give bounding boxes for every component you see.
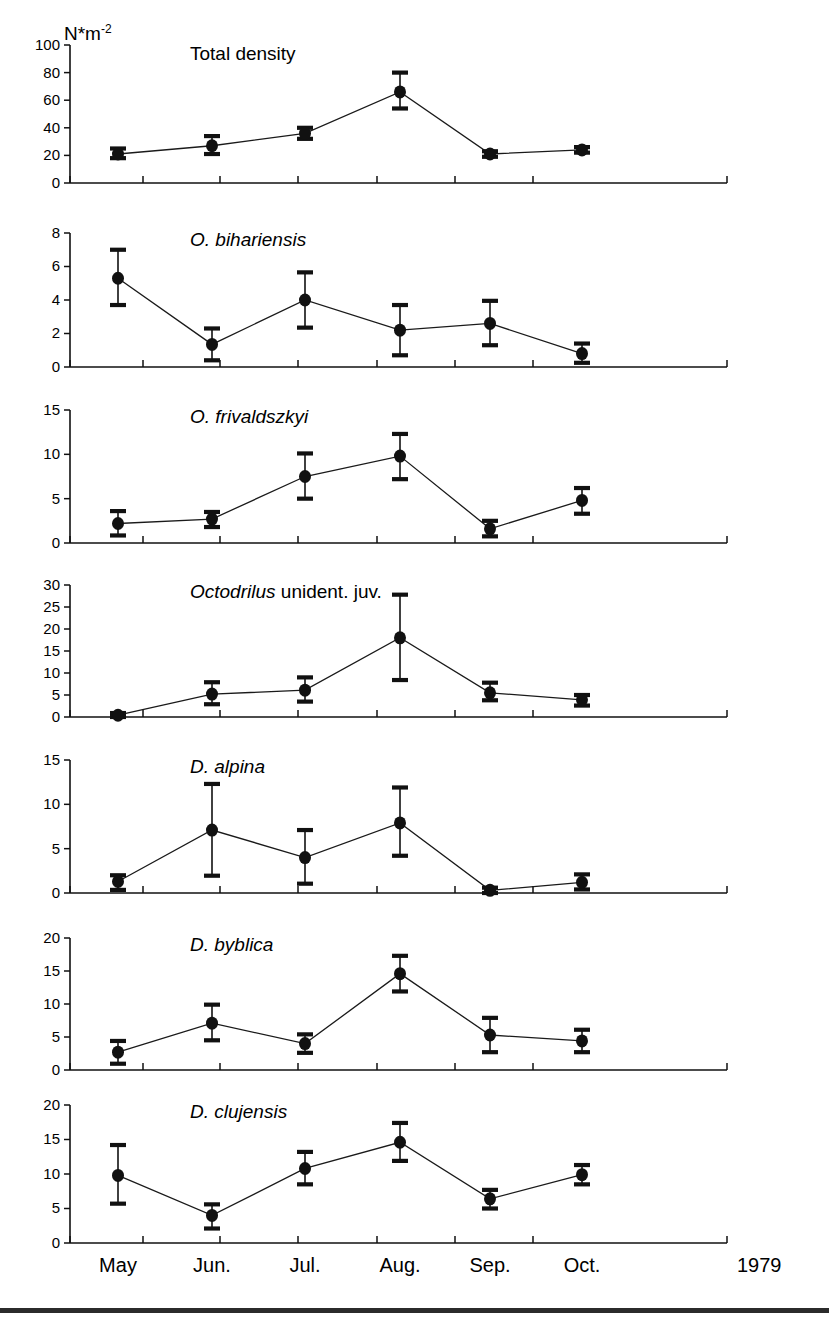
x-axis-label-jun: Jun. [162,1254,262,1277]
data-point-marker [299,684,311,697]
x-axis-labels: MayJun.Jul.Aug.Sep.Oct.1979 [0,1232,829,1292]
y-tick-label: 25 [43,598,60,615]
data-point-marker [112,875,124,888]
x-axis-label-sep: Sep. [440,1254,540,1277]
data-point-marker [206,338,218,351]
data-point-marker [394,450,406,463]
data-point-marker [394,324,406,337]
data-point-marker [576,693,588,706]
data-point-marker [484,686,496,699]
data-point-marker [576,1034,588,1047]
y-tick-label: 5 [52,686,60,703]
panel-title-1: Total density [190,43,296,65]
y-tick-label: 10 [43,1165,60,1182]
data-point-marker [484,1192,496,1205]
data-point-marker [484,148,496,161]
data-point-marker [576,347,588,360]
y-tick-label: 0 [52,884,60,901]
panel-plot-6: 05101520 [0,924,829,1086]
y-tick-label: 15 [43,642,60,659]
series-line [118,638,582,715]
data-point-marker [576,876,588,889]
panel-title-italic: D. clujensis [190,1101,287,1122]
y-tick-label: 0 [52,708,60,725]
panel-1: 020406080100 [0,31,829,199]
data-point-marker [484,317,496,330]
y-tick-label: 2 [52,324,60,341]
y-tick-label: 15 [43,751,60,768]
data-point-marker [206,139,218,152]
y-tick-label: 100 [35,36,60,53]
y-tick-label: 10 [43,664,60,681]
data-point-marker [206,1209,218,1222]
data-point-marker [299,470,311,483]
x-axis-label-jul: Jul. [255,1254,355,1277]
y-tick-label: 5 [52,840,60,857]
panel-title-2: O. bihariensis [190,229,306,251]
y-tick-label: 0 [52,1061,60,1078]
series-line [118,456,582,529]
y-tick-label: 8 [52,224,60,241]
y-tick-label: 0 [52,358,60,375]
data-point-marker [394,816,406,829]
data-point-marker [484,522,496,535]
multi-panel-time-series-figure: N*m-2 0204060801000246805101505101520253… [0,0,829,1330]
data-point-marker [394,631,406,644]
panel-title-7: D. clujensis [190,1101,287,1123]
data-point-marker [299,1162,311,1175]
data-point-marker [576,143,588,156]
data-point-marker [394,967,406,980]
panel-title-5: D. alpina [190,756,265,778]
panel-title-italic: O. bihariensis [190,229,306,250]
data-point-marker [299,1037,311,1050]
panel-plot-5: 051015 [0,746,829,909]
data-point-marker [112,1169,124,1182]
data-point-marker [299,127,311,140]
series-line [118,974,582,1053]
y-tick-label: 10 [43,995,60,1012]
panel-plot-4: 051015202530 [0,571,829,733]
panel-title-6: D. byblica [190,934,273,956]
y-tick-label: 5 [52,1028,60,1045]
panel-4: 051015202530 [0,571,829,733]
data-point-marker [484,884,496,897]
panel-title-italic: D. byblica [190,934,273,955]
panel-title-3: O. frivaldszkyi [190,406,308,428]
data-point-marker [112,148,124,161]
series-line [118,823,582,890]
year-label: 1979 [737,1254,782,1277]
panel-plot-3: 051015 [0,396,829,559]
panel-title-italic: O. frivaldszkyi [190,406,308,427]
data-point-marker [576,494,588,507]
panel-3: 051015 [0,396,829,559]
panel-plot-1: 020406080100 [0,31,829,199]
panel-plot-2: 02468 [0,219,829,383]
y-tick-label: 20 [43,146,60,163]
y-tick-label: 20 [43,620,60,637]
panel-title-italic: D. alpina [190,756,265,777]
x-axis-label-aug: Aug. [350,1254,450,1277]
panel-2: 02468 [0,219,829,383]
panel-6: 05101520 [0,924,829,1086]
y-tick-label: 20 [43,929,60,946]
data-point-marker [112,1046,124,1059]
data-point-marker [112,709,124,722]
y-tick-label: 5 [52,1199,60,1216]
y-tick-label: 20 [43,1096,60,1113]
panel-5: 051015 [0,746,829,909]
y-tick-label: 15 [43,401,60,418]
data-point-marker [394,85,406,98]
panel-title-plain: Total density [190,43,296,64]
y-tick-label: 30 [43,576,60,593]
y-tick-label: 5 [52,490,60,507]
series-line [118,92,582,154]
y-tick-label: 10 [43,445,60,462]
bottom-rule [0,1308,829,1313]
y-tick-label: 80 [43,64,60,81]
data-point-marker [576,1168,588,1181]
x-axis-label-oct: Oct. [532,1254,632,1277]
x-axis-label-may: May [68,1254,168,1277]
data-point-marker [299,294,311,307]
y-tick-label: 15 [43,962,60,979]
y-tick-label: 6 [52,257,60,274]
